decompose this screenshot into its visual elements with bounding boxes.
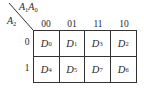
column-variable-label: A1A0 bbox=[19, 1, 38, 13]
kmap-cell: D7 bbox=[85, 57, 111, 83]
row-variable-label: A2 bbox=[7, 15, 16, 27]
kmap-cell: D2 bbox=[111, 31, 137, 57]
kmap-cell: D1 bbox=[60, 31, 86, 57]
column-header: 00 bbox=[33, 19, 59, 29]
kmap-cell: D5 bbox=[60, 57, 86, 83]
column-header: 11 bbox=[85, 19, 111, 29]
kmap-cell: D4 bbox=[34, 57, 60, 83]
row-var-sub: 2 bbox=[13, 20, 16, 27]
row-header: 0 bbox=[22, 37, 32, 47]
column-header: 10 bbox=[111, 19, 137, 29]
karnaugh-map-grid: D0 D1 D3 D2 D4 D5 D7 D6 bbox=[33, 30, 137, 83]
kmap-cell: D6 bbox=[111, 57, 137, 83]
kmap-cell: D0 bbox=[34, 31, 60, 57]
row-header: 1 bbox=[22, 63, 32, 73]
col-var-2-sub: 0 bbox=[34, 6, 37, 13]
kmap-cell: D3 bbox=[85, 31, 111, 57]
column-header: 01 bbox=[59, 19, 85, 29]
